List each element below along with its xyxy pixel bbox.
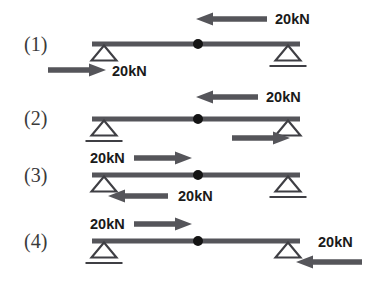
force-label-lower-left-force: 20kN bbox=[178, 188, 213, 204]
beam-case-1: 20kN20kN(1) bbox=[24, 11, 310, 79]
beam-case-4: 20kN20kN(4) bbox=[24, 216, 362, 269]
left-support-pin-triangle bbox=[92, 177, 117, 192]
force-label-upper-left-force: 20kN bbox=[90, 216, 125, 232]
hinge-point bbox=[193, 114, 203, 124]
beam-case-3: 20kN20kN(3) bbox=[24, 150, 307, 204]
case-label-3: (3) bbox=[24, 164, 47, 187]
right-support-pin-triangle bbox=[276, 243, 301, 258]
force-label-upper-right-force: 20kN bbox=[266, 89, 301, 105]
case-label-2: (2) bbox=[24, 107, 47, 130]
hinge-point bbox=[193, 170, 203, 180]
right-support-roller-triangle bbox=[276, 177, 301, 192]
beam-diagram-figure: 20kN20kN(1)20kN(2)20kN20kN(3)20kN20kN(4) bbox=[0, 0, 379, 291]
beam-case-2: 20kN(2) bbox=[24, 89, 301, 145]
force-label-upper-right-force: 20kN bbox=[275, 11, 310, 27]
left-support-pin-triangle bbox=[92, 46, 117, 61]
force-arrow-lower-left-force bbox=[48, 64, 106, 77]
left-support-roller-triangle bbox=[92, 243, 117, 258]
case-label-4: (4) bbox=[24, 230, 47, 253]
hinge-point bbox=[193, 236, 203, 246]
force-arrow-upper-left-force bbox=[134, 152, 192, 165]
left-support-roller-triangle bbox=[92, 121, 117, 136]
right-support-pin-triangle bbox=[276, 121, 301, 136]
force-arrow-upper-left-force bbox=[134, 218, 192, 231]
hinge-point bbox=[193, 39, 203, 49]
force-label-lower-right-force: 20kN bbox=[318, 234, 353, 250]
force-label-lower-left-force: 20kN bbox=[112, 63, 147, 79]
force-arrow-upper-right-force bbox=[196, 91, 258, 104]
force-label-upper-left-force: 20kN bbox=[90, 150, 125, 166]
right-support-roller-triangle bbox=[276, 46, 301, 61]
beam-diagram-svg: 20kN20kN(1)20kN(2)20kN20kN(3)20kN20kN(4) bbox=[0, 0, 379, 291]
force-arrow-lower-right-force bbox=[296, 256, 362, 269]
case-label-1: (1) bbox=[24, 33, 47, 56]
force-arrow-upper-right-force bbox=[196, 13, 267, 26]
